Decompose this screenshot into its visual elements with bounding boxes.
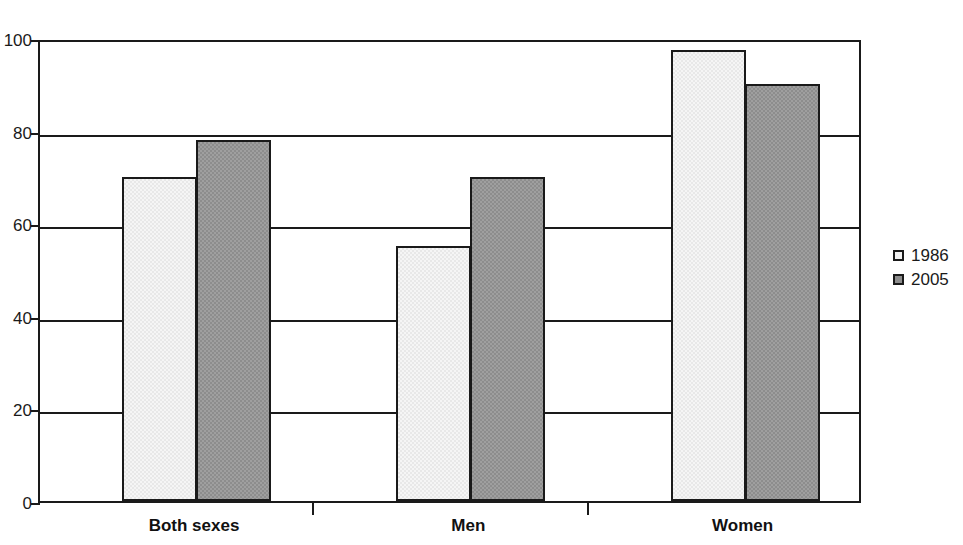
bar-women-1986	[671, 50, 746, 501]
plot-area	[38, 40, 861, 503]
legend-item-2005[interactable]: 2005	[893, 267, 963, 291]
chart-title	[120, 0, 640, 3]
bar-men-2005	[470, 177, 545, 501]
y-tick-mark-20	[31, 410, 40, 412]
category-label-women: Women	[712, 516, 773, 536]
bar-chart: 020406080100 Both sexesMenWomen 1986 200…	[0, 0, 963, 545]
chart-legend: 1986 2005	[893, 243, 963, 291]
y-tick-label-20: 20	[2, 402, 32, 419]
y-tick-mark-80	[31, 133, 40, 135]
x-axis-tick-1	[312, 503, 314, 515]
x-axis-tick-2	[587, 503, 589, 515]
y-tick-mark-100	[31, 40, 40, 42]
category-label-both-sexes: Both sexes	[149, 516, 240, 536]
y-tick-label-0: 0	[2, 495, 32, 512]
y-tick-mark-40	[31, 318, 40, 320]
y-tick-mark-0	[31, 503, 40, 505]
y-axis: 020406080100	[0, 0, 32, 545]
y-tick-label-40: 40	[2, 309, 32, 326]
y-tick-label-100: 100	[2, 32, 32, 49]
bar-men-1986	[396, 246, 471, 501]
bar-both-sexes-1986	[122, 177, 197, 501]
category-label-men: Men	[451, 516, 485, 536]
y-tick-label-60: 60	[2, 217, 32, 234]
y-tick-label-80: 80	[2, 124, 32, 141]
legend-swatch-2005	[893, 274, 904, 285]
legend-label-2005: 2005	[911, 271, 949, 288]
legend-item-1986[interactable]: 1986	[893, 243, 963, 267]
legend-swatch-1986	[893, 250, 904, 261]
y-tick-mark-60	[31, 225, 40, 227]
legend-label-1986: 1986	[911, 247, 949, 264]
bar-both-sexes-2005	[196, 140, 271, 501]
bar-women-2005	[745, 84, 820, 501]
